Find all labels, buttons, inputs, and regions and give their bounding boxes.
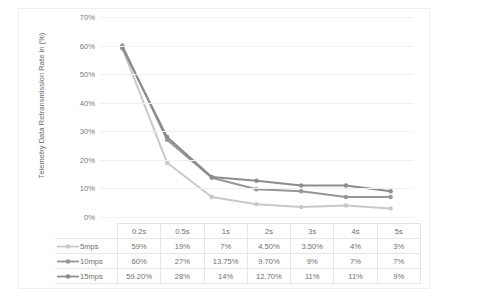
data-point	[388, 195, 392, 199]
legend-label: 5mps	[80, 242, 99, 251]
data-point	[299, 205, 303, 209]
legend-label: 10mps	[80, 257, 103, 266]
table-cell: 28%	[161, 269, 204, 284]
gridline	[100, 217, 413, 218]
series-line-10mps	[122, 46, 390, 197]
legend-entry-10mps[interactable]: 10mps	[55, 254, 118, 269]
table-cell: 27%	[161, 254, 204, 269]
table-cell: 11%	[291, 269, 334, 284]
gridline	[100, 188, 413, 189]
table-cell: 19%	[161, 239, 204, 254]
plot-area	[100, 17, 413, 217]
y-axis-tick-labels: 0%10%20%30%40%50%60%70%	[55, 17, 99, 217]
table-column-header: 2s	[247, 224, 290, 239]
data-point	[344, 183, 348, 187]
table-row: 10mps60%27%13.75%9.70%9%7%7%	[55, 254, 420, 269]
table-cell: 3%	[377, 239, 420, 254]
data-table: 0.2s0.5s1s2s3s4s5s5mps59%19%7%4.50%3.50%…	[55, 223, 421, 284]
table-cell: 14%	[204, 269, 247, 284]
plot-region: Telemetry Data Retransmission Rate in (%…	[19, 9, 431, 224]
table-column-header: 3s	[291, 224, 334, 239]
data-point	[210, 175, 214, 179]
data-point	[344, 195, 348, 199]
table-cell: 59.20%	[118, 269, 161, 284]
series-line-15mps	[122, 48, 390, 191]
table-column-header: 5s	[377, 224, 420, 239]
y-axis-tick: 40%	[80, 98, 95, 107]
gridline	[100, 131, 413, 132]
data-point	[388, 206, 392, 210]
y-axis-tick: 70%	[80, 13, 95, 22]
table-cell: 9%	[377, 269, 420, 284]
data-point	[165, 161, 169, 165]
gridline	[100, 103, 413, 104]
chart-container: Telemetry Data Retransmission Rate in (%…	[18, 8, 430, 289]
legend-entry-15mps[interactable]: 15mps	[55, 269, 118, 284]
table-cell: 9%	[291, 254, 334, 269]
gridline	[100, 160, 413, 161]
data-point	[299, 189, 303, 193]
table-cell: 3.50%	[291, 239, 334, 254]
table-column-header: 4s	[334, 224, 377, 239]
series-lines	[100, 17, 413, 217]
data-point	[165, 135, 169, 139]
table-cell: 59%	[118, 239, 161, 254]
table-cell: 13.75%	[204, 254, 247, 269]
data-point	[254, 202, 258, 206]
y-axis-tick: 20%	[80, 155, 95, 164]
table-column-header: 1s	[204, 224, 247, 239]
gridline	[100, 74, 413, 75]
table-row: 5mps59%19%7%4.50%3.50%4%3%	[55, 239, 420, 254]
data-point	[344, 203, 348, 207]
table-cell: 9.70%	[247, 254, 290, 269]
y-axis-tick: 10%	[80, 184, 95, 193]
table-column-header: 0.2s	[118, 224, 161, 239]
legend-marker-icon	[57, 243, 79, 250]
data-point	[254, 179, 258, 183]
gridline	[100, 17, 413, 18]
table-cell: 7%	[204, 239, 247, 254]
table-cell: 60%	[118, 254, 161, 269]
table-row: 15mps59.20%28%14%12.70%11%11%9%	[55, 269, 420, 284]
data-point	[388, 189, 392, 193]
data-table-body: 0.2s0.5s1s2s3s4s5s5mps59%19%7%4.50%3.50%…	[55, 224, 420, 284]
legend-entry-5mps[interactable]: 5mps	[55, 239, 118, 254]
table-header-row: 0.2s0.5s1s2s3s4s5s	[55, 224, 420, 239]
table-cell: 7%	[377, 254, 420, 269]
legend-label: 15mps	[80, 272, 103, 281]
table-cell: 4%	[334, 239, 377, 254]
table-cell: 12.70%	[247, 269, 290, 284]
y-axis-tick: 30%	[80, 127, 95, 136]
table-cell: 11%	[334, 269, 377, 284]
gridline	[100, 46, 413, 47]
data-point	[299, 183, 303, 187]
y-axis-title: Telemetry Data Retransmission Rate in (%…	[37, 6, 46, 206]
legend-marker-icon	[57, 258, 79, 265]
y-axis-tick: 60%	[80, 41, 95, 50]
legend-marker-icon	[57, 273, 79, 280]
table-cell: 7%	[334, 254, 377, 269]
y-axis-tick: 50%	[80, 70, 95, 79]
y-axis-tick: 0%	[84, 213, 95, 222]
table-cell: 4.50%	[247, 239, 290, 254]
table-column-header: 0.5s	[161, 224, 204, 239]
data-point	[210, 195, 214, 199]
table-corner-blank	[55, 224, 118, 239]
